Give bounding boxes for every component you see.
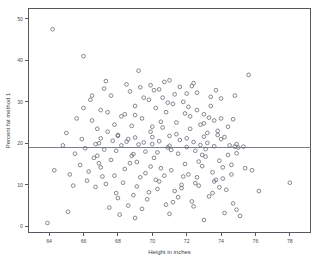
data-point (113, 123, 117, 127)
data-point (120, 144, 124, 148)
data-point (94, 142, 98, 146)
data-point (175, 132, 179, 136)
data-point (211, 171, 215, 175)
data-point (216, 129, 220, 133)
x-tick-label: 70 (149, 238, 155, 244)
data-point (46, 221, 50, 225)
data-point (106, 110, 110, 114)
data-point (106, 130, 110, 134)
data-point (168, 134, 172, 138)
y-tick-label: 20 (17, 140, 23, 146)
data-point (133, 216, 137, 220)
data-point (176, 152, 180, 156)
data-point (152, 156, 156, 160)
data-point (154, 106, 158, 110)
data-point (209, 104, 213, 108)
data-point (94, 185, 98, 189)
data-point (99, 108, 103, 112)
data-point (126, 204, 130, 208)
x-tick-label: 68 (115, 238, 121, 244)
x-tick-label: 74 (218, 238, 224, 244)
data-point (214, 88, 218, 92)
y-tick-label: 50 (17, 16, 23, 22)
data-point (205, 131, 209, 135)
data-point (219, 137, 223, 141)
data-point (185, 92, 189, 96)
data-point (183, 112, 187, 116)
data-point (149, 130, 153, 134)
data-point (101, 175, 105, 179)
data-point (64, 131, 68, 135)
data-point (132, 193, 136, 197)
data-point (211, 191, 215, 195)
data-point (123, 112, 127, 116)
data-point (226, 125, 230, 129)
data-point (195, 108, 199, 112)
data-point (150, 135, 154, 139)
data-point (166, 101, 170, 105)
data-point (171, 102, 175, 106)
data-point (187, 173, 191, 177)
data-point (150, 142, 154, 146)
y-tick-label: 30 (17, 99, 23, 105)
data-point (221, 177, 225, 181)
y-axis-title: Percent fat method 1 (5, 92, 11, 148)
data-point (156, 187, 160, 191)
data-point (104, 182, 108, 186)
data-point (188, 127, 192, 131)
data-point (138, 85, 142, 89)
data-point (192, 205, 196, 209)
data-point (243, 166, 247, 170)
data-point (99, 166, 103, 170)
data-point (173, 189, 177, 193)
data-point (162, 174, 166, 178)
data-point (187, 105, 191, 109)
y-tick-label: 10 (17, 182, 23, 188)
data-point (231, 202, 235, 206)
data-point (75, 117, 79, 121)
data-point (156, 151, 160, 155)
data-point (147, 190, 151, 194)
data-point (97, 161, 101, 165)
data-point (195, 91, 199, 95)
data-point (128, 90, 132, 94)
data-point (226, 153, 230, 157)
data-point (140, 117, 144, 121)
data-point (133, 104, 137, 108)
plot-frame (29, 9, 311, 233)
data-point (288, 181, 292, 185)
data-point (193, 181, 197, 185)
data-point (68, 173, 72, 177)
data-point (142, 96, 146, 100)
x-tick-label: 64 (46, 238, 52, 244)
data-point (130, 124, 134, 128)
data-point (82, 106, 86, 110)
y-axis: 01020304050 (17, 16, 28, 229)
data-point (99, 136, 103, 140)
data-point (235, 208, 239, 212)
data-point (162, 80, 166, 84)
data-points-group (46, 27, 292, 224)
data-point (89, 98, 93, 102)
data-point (159, 166, 163, 170)
data-point (169, 148, 173, 152)
data-point (137, 69, 141, 73)
data-point (228, 144, 232, 148)
data-point (140, 207, 144, 211)
data-point (61, 144, 65, 148)
x-tick-label: 72 (184, 238, 190, 244)
data-point (190, 84, 194, 88)
scatter-plot-figure: 646668707274767801020304050Height in inc… (0, 0, 324, 263)
y-tick-label: 40 (17, 57, 23, 63)
data-point (138, 175, 142, 179)
data-point (181, 175, 185, 179)
x-tick-label: 76 (253, 238, 259, 244)
data-point (197, 184, 201, 188)
data-point (209, 95, 213, 99)
x-axis-title: Height in inches (148, 249, 191, 255)
data-point (202, 112, 206, 116)
data-point (71, 184, 75, 188)
data-point (137, 143, 141, 147)
data-point (135, 160, 139, 164)
data-point (92, 156, 96, 160)
